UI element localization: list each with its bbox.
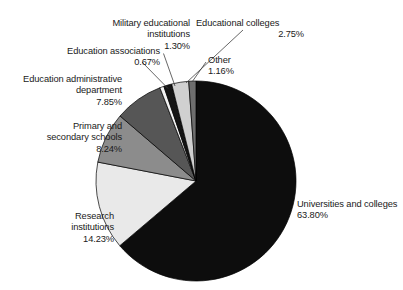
slice-label-educational-colleges-name: Educational colleges bbox=[196, 18, 279, 28]
pie-chart: Military educational institutions 1.30% … bbox=[0, 0, 403, 290]
slice-label-education-administrative-value: 7.85% bbox=[0, 97, 122, 108]
slice-label-other-value: 1.16% bbox=[208, 66, 278, 77]
slice-label-universities-and-colleges: Universities and colleges 63.80% bbox=[297, 188, 403, 233]
slice-label-other: Other 1.16% bbox=[208, 44, 278, 89]
slice-label-primary-and-secondary-schools: Primary and secondary schools 8.24% bbox=[18, 110, 122, 166]
slice-label-research-value: 14.23% bbox=[20, 234, 114, 245]
slice-label-education-associations-name: Education associations bbox=[67, 46, 160, 56]
slice-label-research-name: Research institutions bbox=[71, 211, 114, 232]
leader-line-other bbox=[192, 62, 206, 82]
pie-slices bbox=[96, 81, 296, 281]
slice-label-primary-value: 8.24% bbox=[18, 144, 122, 155]
slice-label-education-administrative-name: Education administrative department bbox=[23, 74, 122, 95]
slice-label-research-institutions: Research institutions 14.23% bbox=[20, 200, 114, 256]
slice-label-primary-name: Primary and secondary schools bbox=[47, 121, 122, 142]
slice-label-other-name: Other bbox=[208, 55, 231, 65]
slice-label-universities-name: Universities and colleges bbox=[297, 199, 397, 209]
slice-label-educational-colleges-value: 2.75% bbox=[196, 29, 304, 40]
slice-label-universities-value: 63.80% bbox=[297, 210, 403, 221]
